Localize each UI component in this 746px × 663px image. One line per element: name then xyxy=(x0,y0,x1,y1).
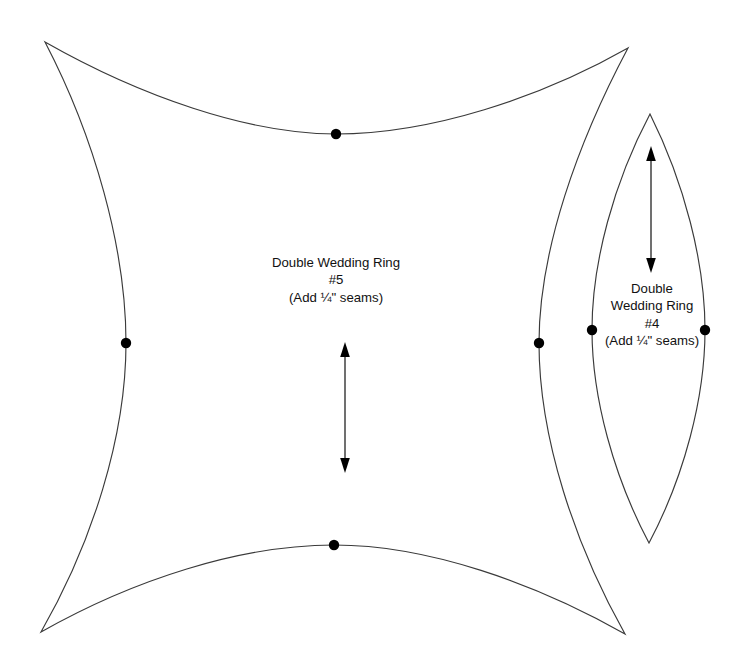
piece-4-grain-arrow xyxy=(646,146,656,273)
piece-4-label: Double Wedding Ring #4 (Add ¼" seams) xyxy=(596,280,708,350)
piece-4-seam-note: (Add ¼" seams) xyxy=(596,332,708,349)
piece-5-top-dot xyxy=(331,129,341,139)
piece-5-label: Double Wedding Ring #5 (Add ¼" seams) xyxy=(236,254,436,306)
piece-4-number: #4 xyxy=(596,315,708,332)
grain-arrowhead-down xyxy=(340,458,350,473)
pattern-sheet: Double Wedding Ring #5 (Add ¼" seams) Do… xyxy=(0,0,746,663)
piece-5-grain-arrow xyxy=(340,342,350,473)
piece-5-bottom-dot xyxy=(329,540,339,550)
piece-4-title-line-1: Double xyxy=(596,280,708,297)
grain-arrowhead-down xyxy=(646,258,656,273)
piece-5-number: #5 xyxy=(236,271,436,288)
piece-5-seam-note: (Add ¼" seams) xyxy=(236,289,436,306)
piece-5-title: Double Wedding Ring xyxy=(236,254,436,271)
piece-5-group xyxy=(41,42,628,634)
piece-5-left-dot xyxy=(121,338,131,348)
piece-5-right-dot xyxy=(534,338,544,348)
piece-4-title-line-2: Wedding Ring xyxy=(596,297,708,314)
grain-arrowhead-up xyxy=(340,342,350,357)
grain-arrowhead-up xyxy=(646,146,656,161)
